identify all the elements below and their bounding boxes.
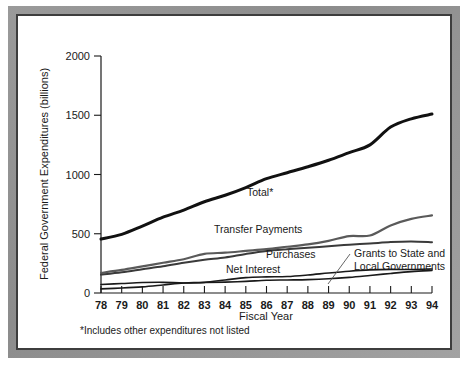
x-tick-label: 88: [302, 299, 314, 311]
chart-svg: 0500100015002000 78798081828384858687888…: [18, 16, 450, 348]
x-tick-label: 84: [219, 299, 232, 311]
y-tick-labels: 0500100015002000: [66, 50, 90, 299]
y-tick-marks: [94, 56, 101, 293]
x-tick-label: 90: [343, 299, 355, 311]
y-tick-label: 0: [84, 287, 90, 299]
series-label-grants-line1: Grants to State and: [354, 247, 445, 259]
series-label-grants-line2: Local Governments: [354, 260, 445, 272]
series-label-transfer-payments: Transfer Payments: [214, 223, 302, 235]
x-tick-label: 83: [198, 299, 210, 311]
series-label-total: Total*: [247, 186, 273, 198]
y-axis-title: Federal Government Expenditures (billion…: [38, 68, 50, 280]
x-tick-label: 93: [405, 299, 417, 311]
line-chart: 0500100015002000 78798081828384858687888…: [18, 16, 450, 348]
series-label-net-interest: Net Interest: [226, 263, 280, 275]
footnote: *Includes other expenditures not listed: [80, 325, 250, 336]
y-tick-label: 1500: [66, 109, 90, 121]
x-tick-label: 79: [116, 299, 128, 311]
y-tick-label: 1000: [66, 169, 90, 181]
grants-leader-line: [328, 254, 350, 284]
x-tick-label: 80: [136, 299, 148, 311]
figure-canvas: 0500100015002000 78798081828384858687888…: [18, 16, 450, 348]
series-line-total: [101, 114, 432, 239]
y-tick-label: 500: [72, 228, 90, 240]
x-tick-marks: [101, 286, 432, 293]
y-tick-label: 2000: [66, 50, 90, 62]
x-tick-label: 92: [385, 299, 397, 311]
x-tick-label: 82: [178, 299, 190, 311]
series-label-purchases: Purchases: [266, 248, 316, 260]
x-tick-label: 78: [95, 299, 107, 311]
x-tick-label: 91: [364, 299, 376, 311]
x-tick-label: 81: [157, 299, 169, 311]
figure-frame: 0500100015002000 78798081828384858687888…: [8, 6, 460, 358]
x-axis-title: Fiscal Year: [239, 310, 293, 322]
x-tick-label: 94: [426, 299, 439, 311]
x-tick-label: 89: [322, 299, 334, 311]
